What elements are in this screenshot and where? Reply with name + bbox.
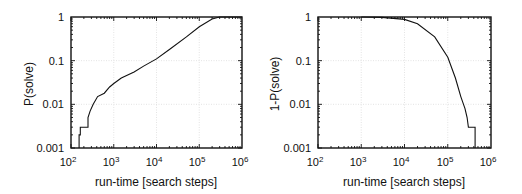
left-x-axis-label: run-time [search steps] bbox=[95, 175, 217, 189]
right-xtick-1e2: 102 bbox=[307, 155, 324, 168]
left-xtick-1e5: 105 bbox=[189, 155, 206, 168]
left-ytick-0.01: 0.01 bbox=[43, 98, 64, 110]
figure: 1 0.1 0.01 0.001 102 103 104 105 106 run… bbox=[0, 0, 522, 194]
right-xtick-1e5: 105 bbox=[437, 155, 454, 168]
left-xtick-1e6: 106 bbox=[232, 155, 249, 168]
right-xtick-1e6: 106 bbox=[480, 155, 497, 168]
left-curve-p-solve bbox=[79, 17, 242, 148]
right-gridlines bbox=[318, 17, 491, 148]
left-ytick-0.1: 0.1 bbox=[49, 55, 64, 67]
left-ytick-0.001: 0.001 bbox=[36, 142, 64, 154]
left-xtick-1e4: 104 bbox=[146, 155, 163, 168]
left-gridlines bbox=[71, 17, 242, 148]
right-xtick-1e4: 104 bbox=[393, 155, 410, 168]
right-xtick-1e3: 103 bbox=[350, 155, 367, 168]
right-x-axis-label: run-time [search steps] bbox=[343, 175, 465, 189]
right-chart: 1 0.1 0.01 0.001 102 103 104 105 106 run… bbox=[268, 11, 497, 189]
right-y-axis-label: 1-P(solve) bbox=[268, 57, 282, 112]
left-chart: 1 0.1 0.01 0.001 102 103 104 105 106 run… bbox=[22, 11, 249, 189]
left-ytick-1: 1 bbox=[58, 11, 64, 23]
right-ytick-0.001: 0.001 bbox=[283, 142, 311, 154]
right-curve-1-minus-p-solve bbox=[361, 17, 475, 148]
left-xtick-1e3: 103 bbox=[103, 155, 120, 168]
left-y-axis-label: P(solve) bbox=[22, 62, 36, 106]
right-ytick-1: 1 bbox=[305, 11, 311, 23]
right-ytick-0.1: 0.1 bbox=[296, 55, 311, 67]
right-ytick-0.01: 0.01 bbox=[290, 98, 311, 110]
left-xtick-1e2: 102 bbox=[60, 155, 77, 168]
